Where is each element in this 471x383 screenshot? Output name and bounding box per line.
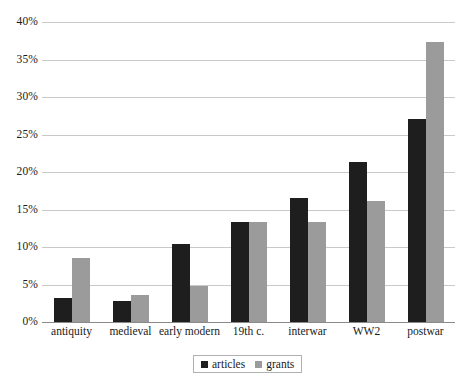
- bar-chart: 0%5%10%15%20%25%30%35%40% antiquitymedie…: [0, 0, 471, 383]
- y-tick-label: 5%: [2, 279, 38, 291]
- y-tick-label: 30%: [2, 91, 38, 103]
- bar-articles-medieval: [113, 301, 131, 322]
- y-axis: 0%5%10%15%20%25%30%35%40%: [0, 22, 38, 322]
- y-tick-label: 40%: [2, 16, 38, 28]
- bar-articles-early-modern: [172, 244, 190, 322]
- bar-grants-19th-c-: [249, 222, 267, 323]
- bar-articles-19th-c-: [231, 222, 249, 323]
- legend-swatch-icon: [201, 361, 208, 368]
- y-tick-label: 0%: [2, 316, 38, 328]
- bar-grants-medieval: [131, 295, 149, 322]
- y-tick-label: 10%: [2, 241, 38, 253]
- x-tick-label: antiquity: [51, 325, 92, 338]
- legend-label: grants: [266, 358, 294, 370]
- bars-layer: [42, 22, 455, 322]
- x-tick-label: early modern: [159, 325, 220, 338]
- gridline-0: [42, 322, 455, 323]
- legend-swatch-icon: [255, 361, 262, 368]
- bar-grants-antiquity: [72, 258, 90, 323]
- x-tick-label: WW2: [353, 325, 380, 338]
- bar-articles-interwar: [290, 198, 308, 323]
- x-axis: antiquitymedievalearly modern19th c.inte…: [42, 325, 455, 345]
- bar-grants-early-modern: [190, 286, 208, 322]
- bar-grants-interwar: [308, 222, 326, 323]
- bar-articles-ww2: [349, 162, 367, 323]
- x-tick-label: medieval: [109, 325, 151, 338]
- y-tick-label: 15%: [2, 204, 38, 216]
- y-tick-label: 25%: [2, 129, 38, 141]
- bar-articles-antiquity: [54, 298, 72, 322]
- bar-articles-postwar: [408, 119, 426, 322]
- legend-label: articles: [212, 358, 245, 370]
- x-tick-label: postwar: [407, 325, 443, 338]
- bar-grants-ww2: [367, 201, 385, 322]
- y-tick-label: 20%: [2, 166, 38, 178]
- legend-entry-articles: articles: [201, 358, 245, 370]
- y-tick-label: 35%: [2, 54, 38, 66]
- bar-grants-postwar: [426, 42, 444, 323]
- legend-entry-grants: grants: [255, 358, 294, 370]
- x-tick-label: interwar: [288, 325, 326, 338]
- x-tick-label: 19th c.: [233, 325, 264, 338]
- chart-legend: articlesgrants: [193, 355, 302, 373]
